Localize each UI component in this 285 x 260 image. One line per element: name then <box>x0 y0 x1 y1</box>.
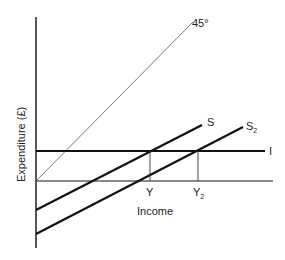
equilibrium-y-label: Y <box>146 186 154 198</box>
forty-five-label: 45° <box>192 17 209 29</box>
equilibrium-y2-label-sub: 2 <box>200 193 204 200</box>
savings-investment-diagram: 45° S S2 I Y Y2 Income Expenditure (£) <box>0 0 285 260</box>
y-axis-label: Expenditure (£) <box>15 107 27 182</box>
savings-s2-label: S2 <box>246 120 257 134</box>
forty-five-degree-line <box>36 22 193 181</box>
savings-s2-label-main: S <box>246 120 253 132</box>
savings-line-s <box>36 125 202 210</box>
investment-label: I <box>269 145 272 157</box>
savings-s2-label-sub: 2 <box>253 127 257 134</box>
x-axis-label: Income <box>137 205 173 217</box>
equilibrium-y2-label: Y2 <box>193 186 204 200</box>
savings-s-label: S <box>207 116 214 128</box>
